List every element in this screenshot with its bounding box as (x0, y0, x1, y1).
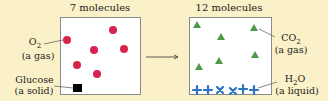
co2-molecules (193, 21, 259, 70)
glucose-label: Glucose (12, 74, 57, 85)
o2-molecules (63, 26, 128, 78)
h2o-state: (a liquid) (271, 85, 323, 96)
o2-state: (a gas) (18, 50, 58, 61)
co2-state: (a gas) (271, 44, 311, 55)
reaction-arrow-icon (146, 55, 178, 59)
glucose-molecule (73, 84, 82, 92)
h2o-molecules (193, 85, 258, 94)
glucose-state: (a solid) (10, 85, 58, 96)
